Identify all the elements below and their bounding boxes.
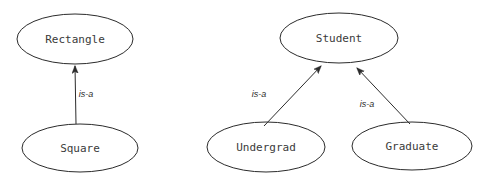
node-rectangle-label: Rectangle	[45, 33, 105, 46]
node-student-label: Student	[316, 32, 362, 45]
edge-label-graduate-to-student: is-a	[360, 99, 375, 109]
edge-graduate-to-student	[357, 68, 410, 124]
node-undergrad-label: Undergrad	[236, 141, 296, 154]
edge-label-undergrad-to-student: is-a	[252, 89, 267, 99]
edge-label-square-to-rectangle: is-a	[79, 89, 94, 99]
group-shapes: Rectangle Square is-a	[17, 14, 138, 172]
node-undergrad[interactable]: Undergrad	[207, 122, 325, 172]
is-a-hierarchy-diagram: Rectangle Square is-a Student Undergrad …	[0, 0, 485, 184]
edge-square-to-rectangle	[75, 66, 76, 124]
node-square[interactable]: Square	[22, 124, 138, 172]
node-square-label: Square	[60, 142, 100, 155]
node-graduate-label: Graduate	[386, 140, 439, 153]
node-rectangle[interactable]: Rectangle	[17, 14, 133, 64]
group-students: Student Undergrad Graduate is-a is-a	[207, 13, 472, 172]
node-student[interactable]: Student	[280, 13, 398, 63]
edge-undergrad-to-student	[264, 66, 321, 126]
node-graduate[interactable]: Graduate	[352, 122, 472, 170]
